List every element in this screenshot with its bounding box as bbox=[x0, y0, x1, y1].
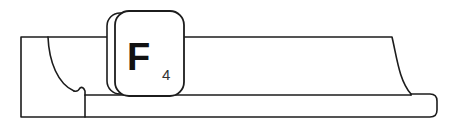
molding-outline-path bbox=[21, 37, 437, 117]
molding-profile-drawing: F 4 bbox=[0, 0, 453, 133]
keycap-letter: F bbox=[127, 36, 150, 78]
diagram-canvas: F 4 bbox=[0, 0, 453, 133]
keycap-subscript: 4 bbox=[162, 66, 170, 83]
